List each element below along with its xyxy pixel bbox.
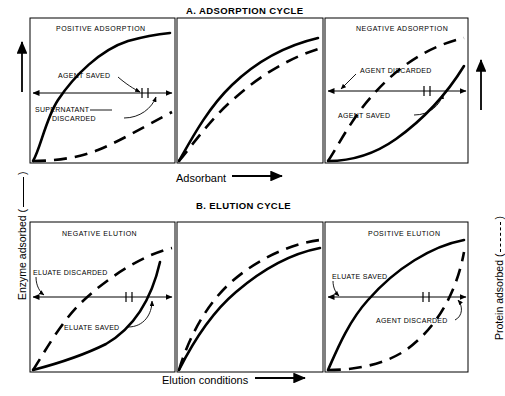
leader-agent-saved xyxy=(414,94,443,115)
curve-enzyme-solid xyxy=(179,248,320,370)
leader-eluate-discarded xyxy=(36,277,44,295)
annotation-eluate-saved: ELUATE SAVED xyxy=(332,273,387,280)
leader-supernatant-discarded xyxy=(124,97,156,118)
panel-negative-elution: NEGATIVE ELUTION ELUATE DISCARDED ELUATE… xyxy=(33,230,172,370)
leader-eluate-saved xyxy=(333,281,339,296)
panel-positive-elution: POSITIVE ELUTION ELUATE SAVED AGENT DISC… xyxy=(328,230,466,370)
curve-protein-dashed xyxy=(179,240,320,370)
panel-frame-positive-adsorption xyxy=(30,18,175,163)
curve-enzyme-solid xyxy=(328,240,464,370)
panel-positive-adsorption: POSITIVE ADSORPTION AGENT SAVED SUPERNAT… xyxy=(33,25,172,161)
panel-label-positive-adsorption: POSITIVE ADSORPTION xyxy=(56,25,146,32)
annotation-supernatant-line2: DISCARDED xyxy=(52,115,96,122)
panel-label-negative-elution: NEGATIVE ELUTION xyxy=(62,230,137,237)
curve-protein-dashed xyxy=(179,49,318,161)
annotation-agent-discarded: AGENT DISCARDED xyxy=(376,317,448,324)
annotation-agent-saved: AGENT SAVED xyxy=(58,72,110,79)
annotation-eluate-saved: ELUATE SAVED xyxy=(64,324,119,331)
annotation-eluate-discarded: ELUATE DISCARDED xyxy=(33,269,108,276)
curve-enzyme-solid xyxy=(33,33,170,161)
panel-negative-adsorption: NEGATIVE ADSORPTION AGENT DISCARDED AGEN… xyxy=(328,25,466,161)
curve-protein-dashed xyxy=(328,252,464,370)
leader-agent-discarded xyxy=(455,300,461,320)
curve-protein-dashed xyxy=(328,38,464,161)
panel-elution-middle xyxy=(179,240,320,370)
leader-agent-discarded xyxy=(341,74,356,89)
annotation-agent-discarded: AGENT DISCARDED xyxy=(360,67,432,74)
panel-frame-elution-middle xyxy=(177,222,323,372)
annotation-agent-saved: AGENT SAVED xyxy=(338,112,390,119)
panel-label-positive-elution: POSITIVE ELUTION xyxy=(368,230,441,237)
curve-enzyme-solid xyxy=(33,262,160,370)
leader-agent-saved xyxy=(118,77,140,92)
annotation-supernatant-line1: SUPERNATANT xyxy=(35,106,90,113)
panel-frame-adsorption-middle xyxy=(177,18,323,163)
panel-adsorption-middle xyxy=(179,38,318,161)
panel-label-negative-adsorption: NEGATIVE ADSORPTION xyxy=(356,25,448,32)
